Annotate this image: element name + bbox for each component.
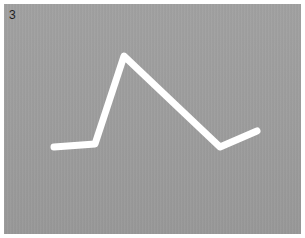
white-stroke-drawing [0,0,305,238]
stroke-polyline [54,56,257,147]
